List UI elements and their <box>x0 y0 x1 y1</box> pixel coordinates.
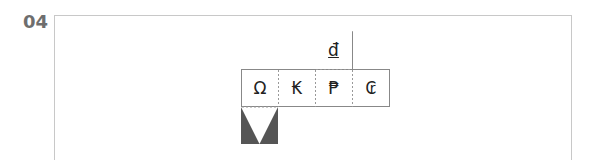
face-peso: ₱ <box>316 70 352 106</box>
face-top: đ <box>315 31 352 69</box>
omega-symbol: Ω <box>254 80 267 97</box>
bottom-face <box>241 107 278 144</box>
dong-symbol: đ <box>328 42 339 59</box>
face-cruzeiro: ₢ <box>353 70 389 106</box>
cruzeiro-symbol: ₢ <box>366 80 377 97</box>
face-kip: ₭ <box>279 70 315 106</box>
face-omega: Ω <box>242 70 278 106</box>
kip-symbol: ₭ <box>292 80 303 97</box>
peso-symbol: ₱ <box>329 80 340 97</box>
